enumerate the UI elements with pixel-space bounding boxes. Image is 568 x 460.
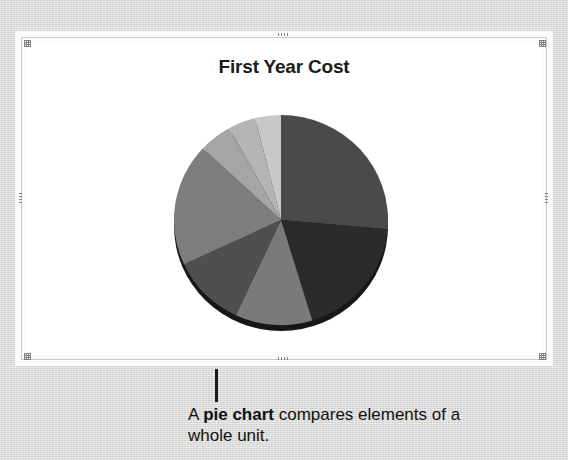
pie-slice-group: [174, 115, 388, 325]
chart-title: First Year Cost: [0, 56, 568, 78]
handle-top-left[interactable]: [24, 40, 31, 47]
pie-slice[interactable]: [281, 115, 388, 229]
handle-top-center[interactable]: [278, 33, 289, 36]
caption-emphasis: pie chart: [203, 405, 274, 424]
handle-bottom-center[interactable]: [278, 357, 289, 360]
pie-chart[interactable]: [174, 108, 388, 336]
handle-top-right[interactable]: [539, 40, 546, 47]
handle-bottom-right[interactable]: [539, 353, 546, 360]
caption-prefix: A: [188, 405, 203, 424]
pie-chart-svg: [174, 108, 388, 336]
handle-middle-left[interactable]: [19, 192, 22, 203]
callout-caption: A pie chart compares elements of a whole…: [188, 404, 488, 446]
handle-bottom-left[interactable]: [24, 353, 31, 360]
callout-leader-line: [215, 369, 218, 402]
handle-middle-right[interactable]: [545, 192, 548, 203]
